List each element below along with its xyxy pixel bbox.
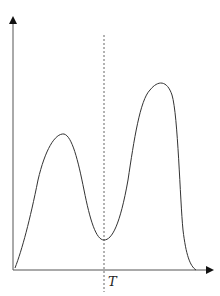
bimodal-curve bbox=[15, 83, 196, 270]
bimodal-diagram bbox=[0, 0, 220, 296]
threshold-label: T bbox=[108, 274, 117, 289]
